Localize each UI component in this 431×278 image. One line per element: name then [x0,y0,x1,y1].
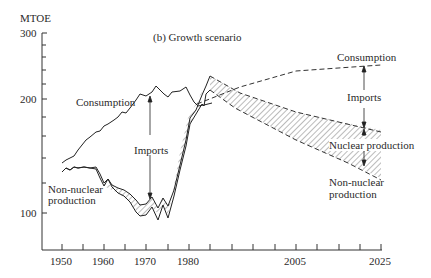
consumption-label-right: Consumption [337,51,396,63]
imports-label-right: Imports [347,91,381,103]
nonnuclear-label-right-1: Non-nuclear [329,176,384,188]
x-tick-2025: 2025 [369,255,391,267]
x-tick-1980: 1980 [177,255,199,267]
y-axis [42,33,47,250]
nuclear-label-right: Nuclear production [329,139,414,151]
imports-label-left: Imports [134,144,168,156]
x-tick-1970: 1970 [134,255,156,267]
nonnuclear-label-left-2: production [48,194,96,206]
chart-title: (b) Growth scenario [153,31,242,43]
x-tick-1960: 1960 [92,255,114,267]
y-tick-100: 100 [20,207,37,219]
x-tick-1950: 1950 [50,255,72,267]
consumption-label-left: Consumption [76,96,135,108]
y-tick-300: 300 [20,27,37,39]
y-axis-unit-label: MTOE [20,12,51,24]
nonnuclear-label-right-2: production [329,188,377,200]
x-axis [42,244,382,250]
y-tick-200: 200 [20,93,37,105]
x-tick-2005: 2005 [284,255,306,267]
